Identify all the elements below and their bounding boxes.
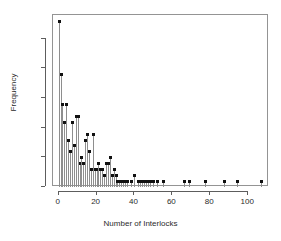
y-tick	[41, 97, 45, 98]
stem-line	[114, 169, 115, 187]
data-point-marker	[109, 156, 112, 159]
chart-figure: 0510152025 020406080100 Number of Interl…	[0, 0, 281, 241]
data-point-marker	[149, 180, 152, 183]
x-tick	[133, 191, 134, 195]
data-point-marker	[115, 174, 118, 177]
data-point-marker	[60, 73, 63, 76]
data-point-marker	[188, 180, 191, 183]
stem-line	[62, 104, 63, 187]
stem-line	[72, 122, 73, 187]
stem-line	[59, 21, 60, 187]
data-point-marker	[67, 139, 70, 142]
data-point-marker	[223, 180, 226, 183]
stem-line	[78, 116, 79, 187]
stem-line	[83, 163, 84, 187]
stem-line	[100, 169, 101, 187]
y-tick	[41, 38, 45, 39]
stem-line	[76, 116, 77, 187]
data-point-marker	[204, 180, 207, 183]
plot-panel	[52, 14, 268, 186]
data-point-marker	[130, 180, 133, 183]
stem-line	[61, 74, 62, 187]
y-axis-title: Frequency	[9, 33, 18, 153]
x-axis-line	[58, 191, 247, 192]
x-tick-label: 0	[55, 197, 59, 206]
stem-line	[66, 104, 67, 187]
plot-data-area	[53, 15, 267, 185]
stem-line	[110, 157, 111, 187]
x-tick	[96, 191, 97, 195]
data-point-marker	[162, 180, 165, 183]
y-tick	[41, 186, 45, 187]
y-axis-line	[45, 38, 46, 186]
x-tick	[58, 191, 59, 195]
data-point-marker	[133, 174, 136, 177]
stem-line	[95, 169, 96, 187]
stem-line	[102, 169, 103, 187]
y-tick	[41, 156, 45, 157]
data-point-marker	[61, 103, 64, 106]
data-point-marker	[86, 133, 89, 136]
x-tick-label: 20	[91, 197, 100, 206]
stem-line	[97, 169, 98, 187]
x-axis-title: Number of Interlocks	[0, 219, 281, 228]
stem-line	[91, 169, 92, 187]
x-tick-label: 40	[129, 197, 138, 206]
stem-line	[87, 134, 88, 187]
y-tick	[41, 127, 45, 128]
x-tick	[247, 191, 248, 195]
x-tick	[171, 191, 172, 195]
data-point-marker	[88, 150, 91, 153]
data-point-marker	[97, 162, 100, 165]
stem-line	[64, 122, 65, 187]
y-tick	[41, 67, 45, 68]
data-point-marker	[65, 103, 68, 106]
stem-line	[108, 163, 109, 187]
x-tick-label: 60	[167, 197, 176, 206]
data-point-marker	[58, 20, 61, 23]
data-point-marker	[92, 133, 95, 136]
stem-line	[70, 151, 71, 187]
stem-line	[85, 140, 86, 187]
stem-line	[74, 145, 75, 187]
data-point-marker	[101, 168, 104, 171]
stem-line	[93, 134, 94, 187]
data-point-marker	[260, 180, 263, 183]
data-point-marker	[156, 180, 159, 183]
data-point-marker	[113, 168, 116, 171]
stem-line	[80, 163, 81, 187]
data-point-marker	[80, 156, 83, 159]
data-point-marker	[71, 121, 74, 124]
data-point-marker	[126, 180, 129, 183]
data-point-marker	[183, 180, 186, 183]
x-tick-label: 80	[205, 197, 214, 206]
x-tick	[209, 191, 210, 195]
data-point-marker	[77, 115, 80, 118]
stem-line	[68, 140, 69, 187]
stem-line	[98, 163, 99, 187]
data-point-marker	[152, 180, 155, 183]
data-point-marker	[236, 180, 239, 183]
stem-line	[106, 163, 107, 187]
x-tick-label: 100	[240, 197, 253, 206]
